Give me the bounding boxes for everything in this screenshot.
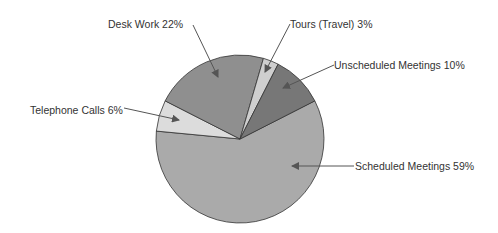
label-unscheduled-meetings: Unscheduled Meetings 10% [334,59,465,71]
label-scheduled-meetings: Scheduled Meetings 59% [355,160,474,172]
label-desk-work: Desk Work 22% [108,18,183,30]
label-telephone-calls: Telephone Calls 6% [30,104,123,116]
pie-chart: Desk Work 22% Tours (Travel) 3% Unschedu… [0,0,498,233]
pie-slices [156,55,324,223]
label-tours: Tours (Travel) 3% [290,18,372,30]
